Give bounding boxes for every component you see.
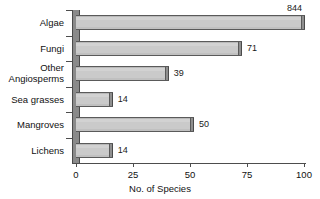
- bar-row-mangroves: 50: [76, 112, 305, 138]
- x-axis-tick-label-25: 25: [128, 169, 139, 180]
- x-axis-tick: [76, 163, 77, 167]
- plot-area: 844 71 39 14: [76, 10, 305, 163]
- bar-other-angiosperms[interactable]: [76, 66, 169, 81]
- x-axis-tick: [190, 163, 191, 167]
- x-axis-tick-label-0: 0: [73, 169, 78, 180]
- x-axis-tick-label-100: 100: [296, 169, 312, 180]
- y-axis-label-lichens: Lichens: [31, 145, 64, 156]
- y-axis-label-algae: Algae: [40, 17, 64, 28]
- bar-value-sea-grasses: 14: [118, 94, 128, 104]
- bar-end-cap: [190, 118, 194, 131]
- y-axis-label-text: Mangroves: [17, 119, 64, 130]
- y-axis-tick: [66, 87, 72, 88]
- x-axis-tick-label-50: 50: [185, 169, 196, 180]
- y-axis-label-mangroves: Mangroves: [17, 119, 64, 130]
- y-axis-label-text: Lichens: [31, 145, 64, 156]
- bar-sea-grasses[interactable]: [76, 92, 113, 107]
- bar-end-cap: [238, 42, 242, 55]
- y-axis-tick: [66, 138, 72, 139]
- x-axis-line: [72, 163, 306, 164]
- y-axis-label-text: Fungi: [40, 43, 64, 54]
- bar-wrapper: [76, 92, 113, 107]
- bar-row-lichens: 14: [76, 138, 305, 164]
- bar-algae[interactable]: [76, 15, 305, 30]
- bar-lichens[interactable]: [76, 143, 113, 158]
- y-axis-label-text: Sea grasses: [11, 94, 64, 105]
- bar-end-cap: [109, 144, 113, 157]
- bar-end-cap: [109, 93, 113, 106]
- bar-value-other-angiosperms: 39: [174, 68, 184, 78]
- bar-row-sea-grasses: 14: [76, 87, 305, 113]
- y-axis-label-sea-grasses: Sea grasses: [11, 94, 64, 105]
- bar-end-cap: [301, 16, 305, 29]
- y-axis-label-text: Algae: [40, 17, 64, 28]
- y-axis-label-text-line1: Other: [9, 62, 64, 73]
- bar-row-fungi: 71: [76, 36, 305, 62]
- bar-end-cap: [165, 67, 169, 80]
- x-axis-tick-label-75: 75: [242, 169, 253, 180]
- x-axis-tick: [247, 163, 248, 167]
- bar-wrapper: [76, 15, 305, 30]
- y-axis-tick: [66, 61, 72, 62]
- bar-mangroves[interactable]: [76, 117, 194, 132]
- y-axis-tick: [66, 112, 72, 113]
- bar-value-mangroves: 50: [199, 119, 209, 129]
- bar-wrapper: [76, 117, 194, 132]
- bar-value-algae: 844: [287, 3, 302, 13]
- bar-wrapper: [76, 143, 113, 158]
- bar-value-lichens: 14: [118, 145, 128, 155]
- y-axis-tick: [66, 36, 72, 37]
- bar-value-fungi: 71: [247, 43, 257, 53]
- bar-wrapper: [76, 66, 169, 81]
- bar-row-algae: 844: [76, 10, 305, 36]
- bar-chart-figure: Algae Fungi Other Angiosperms Sea grasse…: [0, 0, 320, 199]
- y-axis-label-fungi: Fungi: [40, 43, 64, 54]
- y-axis-tick: [66, 10, 72, 11]
- x-axis-title: No. of Species: [0, 183, 320, 194]
- x-axis-tick: [133, 163, 134, 167]
- bar-row-other-angiosperms: 39: [76, 61, 305, 87]
- x-axis-tick: [304, 163, 305, 167]
- y-axis-label-other-angiosperms: Other Angiosperms: [9, 62, 64, 84]
- y-axis-label-text-line2: Angiosperms: [9, 73, 64, 84]
- bar-fungi[interactable]: [76, 41, 242, 56]
- bar-wrapper: [76, 41, 242, 56]
